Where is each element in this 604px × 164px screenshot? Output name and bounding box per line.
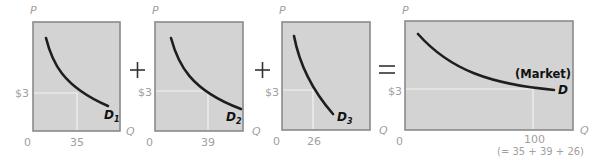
market-demand-diagram: P D1 $3 0 35 Q P D2 $3 0 39 Q P D3 $3 [0,0,604,164]
panel-d1: P D1 $3 0 35 Q [15,4,135,149]
price-tick: $3 [15,87,29,100]
q-axis-label: Q [126,125,135,138]
p-axis-label: P [152,4,159,17]
price-tick: $3 [265,86,279,99]
price-tick: $3 [138,86,152,99]
market-caption: (Market) [515,67,571,81]
equals-operator [379,66,395,73]
origin-label: 0 [146,136,153,149]
plus-operator-2 [255,62,270,78]
quantity-tick: 35 [70,136,84,149]
quantity-tick: 100 [524,133,545,146]
quantity-tick: 26 [307,135,321,148]
q-axis-label: Q [379,124,388,137]
p-axis-label: P [402,4,409,17]
q-axis-label: Q [580,124,589,137]
q-axis-label: Q [252,125,261,138]
origin-label: 0 [396,135,403,148]
plus-operator-1 [130,62,145,78]
panel-d2: P D2 $3 0 39 Q [138,4,261,149]
price-tick: $3 [388,85,402,98]
panel-market: P (Market) D $3 0 100 (= 35 + 39 + 26) Q [388,4,589,157]
curve-label-market: D [558,83,568,97]
quantity-sum-note: (= 35 + 39 + 26) [497,146,584,157]
panel-d3: P D3 $3 0 26 Q [265,4,388,148]
origin-label: 0 [273,135,280,148]
p-axis-label: P [279,4,286,17]
p-axis-label: P [30,4,37,17]
quantity-tick: 39 [201,136,215,149]
origin-label: 0 [24,136,31,149]
